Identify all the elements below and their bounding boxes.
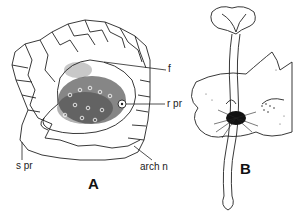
- label-r-pr: r pr: [167, 99, 182, 109]
- panel-letter-b: B: [240, 160, 251, 177]
- botanical-figure: f r pr s pr arch n A B: [0, 0, 294, 221]
- label-arch-n: arch n: [140, 162, 168, 172]
- label-s-pr: s pr: [16, 161, 33, 171]
- illustration-drawing: [0, 0, 294, 221]
- label-f: f: [168, 64, 171, 74]
- panel-letter-a: A: [88, 175, 99, 192]
